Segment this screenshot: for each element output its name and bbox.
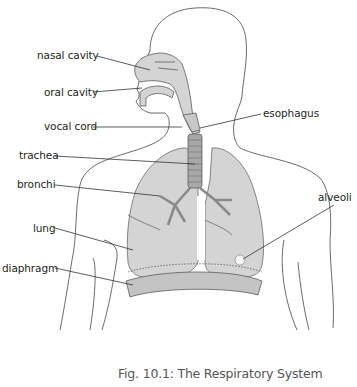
- label-esophagus: esophagus: [263, 107, 319, 119]
- label-vocal-cord: vocal cord: [44, 120, 97, 132]
- right-lung: [127, 148, 198, 278]
- alveoli-cluster: [235, 255, 245, 265]
- label-lung: lung: [33, 222, 56, 234]
- label-diaphragm: diaphragm: [2, 262, 58, 274]
- left-lung: [205, 148, 264, 278]
- label-alveoli: alveoli: [318, 191, 352, 203]
- figure-caption: Fig. 10.1: The Respiratory System: [118, 366, 322, 381]
- label-bronchi: bronchi: [17, 178, 55, 190]
- upper-airway: [135, 53, 200, 134]
- label-oral-cavity: oral cavity: [44, 86, 98, 98]
- label-nasal-cavity: nasal cavity: [37, 49, 99, 61]
- label-trachea: trachea: [19, 149, 59, 161]
